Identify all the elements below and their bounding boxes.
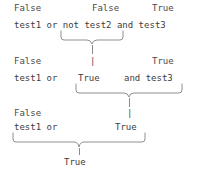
step3-expression-left: test1 or	[14, 122, 57, 133]
step2-expression-mid: True	[78, 73, 100, 84]
step3-label-bar: |	[127, 108, 132, 119]
step2-result-connector	[129, 98, 130, 107]
step2-group-brace	[75, 84, 183, 99]
step1-result-connector	[92, 45, 93, 54]
step1-label-test3: True	[152, 3, 174, 14]
boolean-evaluation-diagram: False False True test1 or not test2 and …	[0, 0, 199, 178]
step1-expression: test1 or not test2 and test3	[14, 20, 166, 31]
final-result: True	[64, 157, 86, 168]
step2-label-bar: |	[90, 56, 95, 67]
step1-label-test1: False	[14, 3, 41, 14]
step1-group-brace	[60, 31, 124, 46]
step2-expression-right: and test3	[124, 73, 173, 84]
step2-expression-left: test1 or	[14, 73, 57, 84]
step1-label-test2: False	[92, 3, 119, 14]
step2-label-test1: False	[14, 56, 41, 67]
step3-group-brace	[12, 133, 146, 149]
step3-label-test1: False	[14, 108, 41, 119]
final-result-connector	[79, 148, 80, 155]
step2-label-test3: True	[152, 56, 174, 67]
step3-expression-right: True	[115, 122, 137, 133]
